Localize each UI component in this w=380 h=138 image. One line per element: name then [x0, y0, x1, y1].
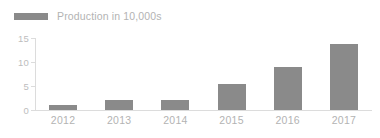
legend-label: Production in 10,000s [57, 10, 162, 22]
bar [105, 100, 133, 110]
bar [161, 100, 189, 110]
bar-series [35, 36, 372, 110]
legend-swatch-icon [14, 13, 48, 20]
x-axis-label: 2014 [147, 113, 203, 127]
y-tick-label: 10 [18, 57, 29, 68]
bar-chart: Production in 10,000s 151050 20122013201… [0, 0, 380, 138]
bar [218, 84, 246, 110]
plot-area: 151050 [35, 36, 372, 110]
x-axis-label: 2013 [91, 113, 147, 127]
y-tick-mark [31, 110, 35, 111]
x-axis-label: 2012 [35, 113, 91, 127]
x-axis-line [35, 110, 372, 111]
y-tick-label: 15 [18, 33, 29, 44]
bar [49, 105, 77, 110]
bar-slot [49, 36, 77, 110]
x-axis-label: 2017 [316, 113, 372, 127]
y-tick-label: 0 [24, 105, 29, 116]
bar-slot [218, 36, 246, 110]
x-axis-labels: 201220132014201520162017 [35, 113, 372, 131]
y-tick-label: 5 [24, 81, 29, 92]
bar-slot [105, 36, 133, 110]
chart-legend: Production in 10,000s [14, 8, 162, 24]
x-axis-label: 2015 [204, 113, 260, 127]
bar-slot [330, 36, 358, 110]
bar [274, 67, 302, 110]
x-axis-label: 2016 [260, 113, 316, 127]
bar [330, 44, 358, 110]
bar-slot [161, 36, 189, 110]
bar-slot [274, 36, 302, 110]
